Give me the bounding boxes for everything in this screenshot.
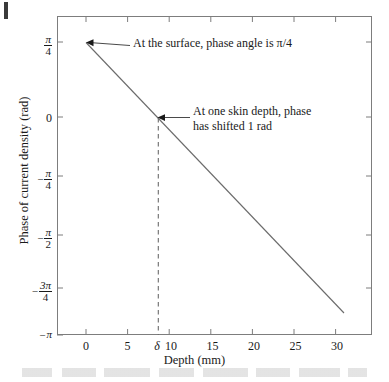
data-line-phase <box>86 43 344 314</box>
annotation-skin-depth-arrow <box>158 114 191 121</box>
annotation-surface-arrow <box>86 39 130 46</box>
x-axis-ticks <box>86 329 336 335</box>
y-axis-ticks-right <box>366 42 372 288</box>
page-caption-fragment <box>22 368 367 377</box>
x-axis-ticks-top <box>86 16 336 22</box>
plot-graphics <box>0 0 389 382</box>
figure-canvas: π4 0 −π4 −π2 −3π4 −π 0 5 10 15 20 25 30 … <box>0 0 389 382</box>
y-axis-ticks <box>57 42 63 335</box>
